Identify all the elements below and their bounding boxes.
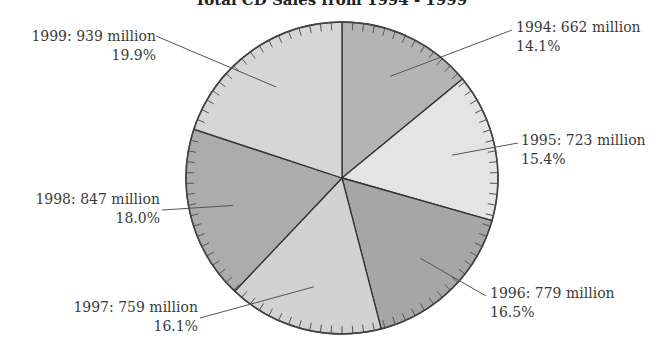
slice-label-1996-percent: 16.5% <box>490 303 615 322</box>
slice-label-1997-percent: 16.1% <box>40 317 198 336</box>
slice-label-1994-value: 1994: 662 million <box>516 18 641 37</box>
slice-label-1994: 1994: 662 million 14.1% <box>516 18 641 56</box>
slice-label-1995-percent: 15.4% <box>521 150 646 169</box>
slice-label-1999-value: 1999: 939 million <box>0 27 156 46</box>
slice-label-1997: 1997: 759 million 16.1% <box>40 298 198 336</box>
slice-label-1998: 1998: 847 million 18.0% <box>2 190 160 228</box>
slice-label-1996-value: 1996: 779 million <box>490 284 615 303</box>
slice-label-1998-percent: 18.0% <box>2 209 160 228</box>
slice-label-1997-value: 1997: 759 million <box>40 298 198 317</box>
slice-label-1995: 1995: 723 million 15.4% <box>521 131 646 169</box>
slice-label-1999: 1999: 939 million 19.9% <box>0 27 156 65</box>
slice-label-1994-percent: 14.1% <box>516 37 641 56</box>
slice-label-1996: 1996: 779 million 16.5% <box>490 284 615 322</box>
slice-label-1998-value: 1998: 847 million <box>2 190 160 209</box>
slice-label-1995-value: 1995: 723 million <box>521 131 646 150</box>
slice-label-1999-percent: 19.9% <box>0 46 156 65</box>
